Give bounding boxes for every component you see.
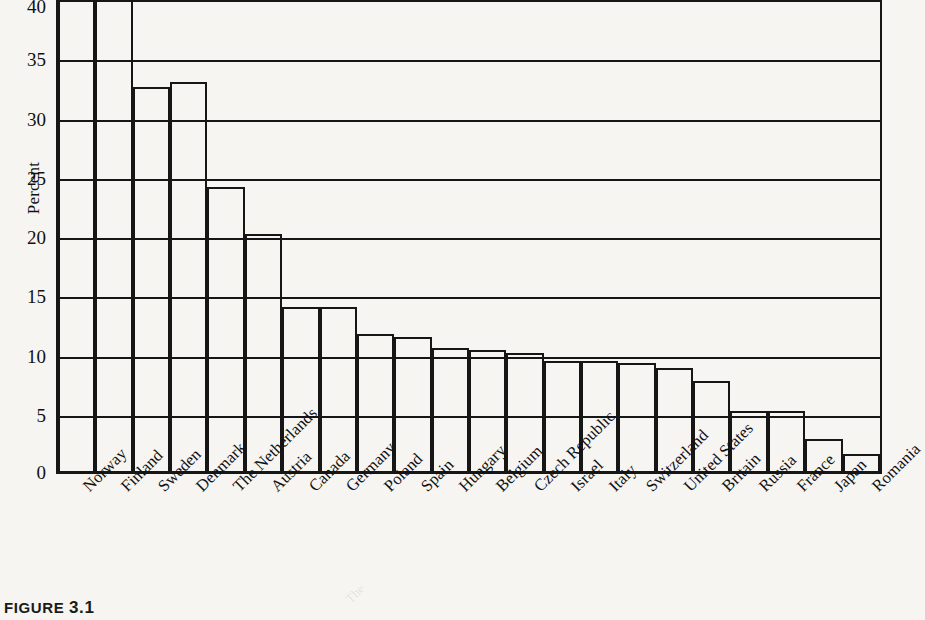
bar-slot	[133, 2, 170, 471]
bar[interactable]	[432, 348, 469, 471]
bar-slot	[469, 2, 506, 471]
bar-slot	[320, 2, 357, 471]
bar[interactable]	[618, 363, 655, 471]
y-axis-tick-label: 5	[8, 405, 46, 424]
bar-slot	[544, 2, 581, 471]
y-axis-tick-label: 15	[8, 287, 46, 306]
plot-area	[56, 0, 882, 474]
y-axis-tick-label: 25	[8, 168, 46, 187]
figure-caption: FIGURE 3.1	[4, 598, 95, 620]
bar-slot	[843, 2, 880, 471]
bar-slot	[357, 2, 394, 471]
page-showthrough-text: The	[342, 581, 368, 607]
bar-slot	[768, 2, 805, 471]
bar-slot	[730, 2, 767, 471]
y-axis-tick-label: 35	[8, 50, 46, 69]
bar[interactable]	[133, 87, 170, 471]
bar-slot	[58, 2, 95, 471]
bar-slot	[506, 2, 543, 471]
x-axis-category-labels: NorwayFinlandSwedenDenmarkThe Netherland…	[56, 474, 882, 584]
bar[interactable]	[58, 0, 95, 471]
figure-caption-number: 3.1	[69, 598, 94, 617]
bar-slot	[282, 2, 319, 471]
bar[interactable]	[320, 307, 357, 471]
y-axis-tick-label: 40	[8, 0, 46, 16]
bar-slot	[95, 2, 132, 471]
bar[interactable]	[207, 187, 244, 471]
bar-slot	[245, 2, 282, 471]
bar[interactable]	[170, 82, 207, 471]
bar-slot	[207, 2, 244, 471]
bar-slot	[394, 2, 431, 471]
y-axis-tick-label: 0	[8, 463, 46, 482]
y-axis-tick-label: 10	[8, 346, 46, 365]
y-axis-ticks: 0510152025303540	[0, 0, 46, 474]
bar-series	[58, 2, 880, 471]
bar-slot	[656, 2, 693, 471]
bar-slot	[581, 2, 618, 471]
bar-slot	[693, 2, 730, 471]
bar-slot	[618, 2, 655, 471]
bar[interactable]	[95, 0, 132, 471]
bar-slot	[432, 2, 469, 471]
y-axis-tick-label: 20	[8, 228, 46, 247]
figure-caption-label: FIGURE	[4, 599, 64, 616]
bar-slot	[805, 2, 842, 471]
y-axis-tick-label: 30	[8, 109, 46, 128]
bar-slot	[170, 2, 207, 471]
